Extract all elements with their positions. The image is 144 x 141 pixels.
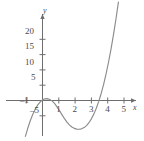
x-tick-label-1: 1 — [56, 105, 61, 114]
y-tick-label-5: 5 — [31, 73, 36, 82]
x-axis-label: x — [133, 104, 137, 112]
y-axis-label: y — [43, 7, 47, 15]
y-tick-label-10: 10 — [25, 58, 34, 67]
y-tick-label-15: 15 — [25, 42, 34, 51]
x-tick-label-4: 4 — [105, 105, 110, 114]
x-tick-label--1: –1 — [20, 96, 29, 105]
chart-plot-area — [0, 0, 144, 141]
x-tick-label-2: 2 — [73, 105, 78, 114]
y-tick-label-20: 20 — [25, 27, 34, 36]
y-tick-label--5: –5 — [30, 106, 39, 115]
figure-container: –1 1 2 3 4 5 –5 5 10 15 20 y x — [0, 0, 144, 141]
cubic-curve — [25, 2, 118, 136]
x-tick-label-5: 5 — [122, 105, 127, 114]
x-tick-label-3: 3 — [89, 105, 94, 114]
